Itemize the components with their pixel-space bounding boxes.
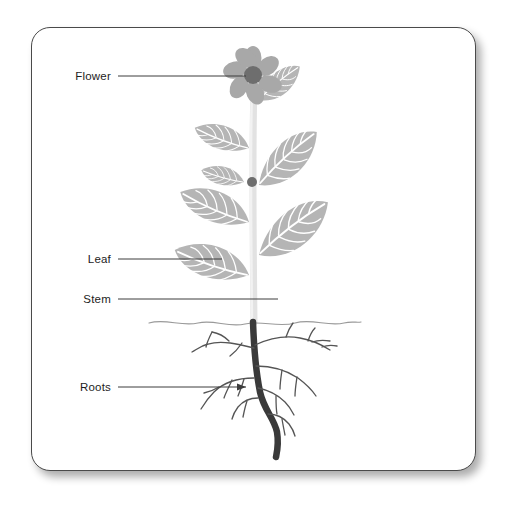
leaf-left-1	[191, 112, 253, 163]
label-flower: Flower	[0, 70, 111, 82]
leader-arrowhead-roots	[237, 384, 246, 391]
leaf-right-2	[246, 123, 330, 194]
bud-dot	[247, 177, 257, 187]
label-leaf: Leaf	[0, 253, 111, 265]
leaf-left-2	[175, 173, 255, 241]
diagram-stage: Flower Leaf Stem Roots	[0, 0, 508, 505]
leaf-left-3	[170, 229, 255, 296]
label-stem: Stem	[0, 293, 111, 305]
leaf-right-3	[247, 191, 341, 266]
label-roots: Roots	[0, 381, 111, 393]
root-system	[192, 322, 337, 457]
plant-stem	[251, 74, 257, 322]
